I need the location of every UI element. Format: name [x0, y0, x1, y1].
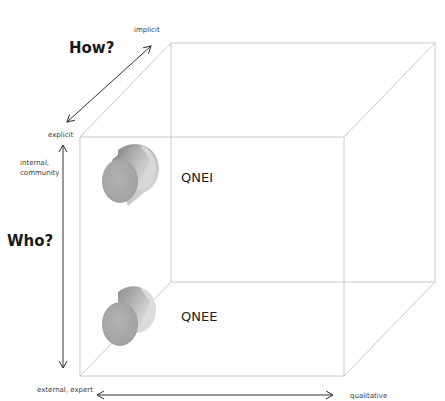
item-label-qnei: QNEI — [181, 171, 213, 185]
cube-diagram-graphic — [0, 0, 445, 401]
how-axis-end-label: implicit — [134, 27, 160, 35]
item-label-qnee: QNEE — [181, 310, 217, 324]
cube-back-face — [171, 43, 435, 282]
how-axis-title: How? — [69, 40, 114, 57]
who-axis-top-label-line2: community — [20, 170, 59, 178]
how-axis-arrow — [67, 46, 151, 122]
how-axis-start-label: explicit — [48, 132, 73, 140]
who-axis-bottom-label: external, expert — [37, 387, 93, 395]
cube-diagram: implicit How? explicit internal, communi… — [0, 0, 445, 401]
who-axis-title: Who? — [7, 233, 53, 250]
who-axis-top-label-line1: internal, — [20, 160, 49, 168]
what-axis-right-label: qualitative — [350, 393, 387, 401]
cylinder-qnei — [102, 144, 159, 206]
cylinder-qnee — [102, 286, 156, 346]
